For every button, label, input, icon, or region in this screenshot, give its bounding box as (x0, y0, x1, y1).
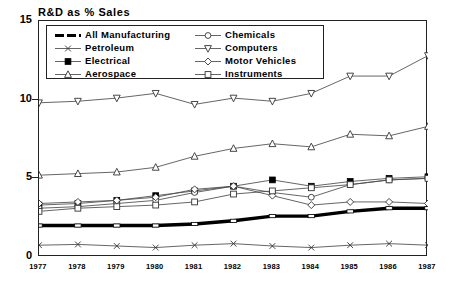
data-point-marker (270, 188, 276, 194)
legend-marker-icon (53, 67, 83, 80)
legend: All ManufacturingPetroleumElectricalAero… (46, 25, 324, 79)
x-tick-label: 1978 (68, 262, 86, 271)
data-point-marker (308, 194, 314, 200)
data-point-marker (75, 205, 81, 211)
x-tick-label: 1984 (302, 262, 320, 271)
data-point-marker (153, 202, 159, 208)
data-point-marker (347, 198, 354, 205)
data-point-marker (308, 185, 314, 191)
data-point-marker (192, 199, 198, 205)
data-point-marker (205, 72, 211, 78)
data-point-marker (425, 53, 428, 60)
legend-marker-icon (53, 28, 83, 41)
x-tick-label: 1979 (107, 262, 125, 271)
legend-marker-icon (193, 28, 223, 41)
legend-marker-icon (53, 41, 83, 54)
y-tick-label: 10 (4, 92, 32, 104)
data-point-marker (205, 58, 212, 65)
x-tick-label: 1985 (340, 262, 358, 271)
data-point-marker (269, 214, 275, 217)
x-tick-label: 1983 (263, 262, 281, 271)
data-point-marker (114, 204, 120, 210)
y-tick-label: 0 (4, 249, 32, 261)
legend-label: Instruments (225, 67, 283, 80)
legend-label: Motor Vehicles (225, 54, 296, 67)
chart-title: R&D as % Sales (38, 6, 130, 18)
data-point-marker (153, 224, 159, 227)
legend-label: Electrical (85, 54, 130, 67)
data-point-marker (231, 191, 237, 197)
series-petroleum (39, 241, 428, 251)
data-point-marker (230, 219, 236, 222)
series-all-manufacturing (39, 207, 428, 228)
x-tick-label: 1977 (29, 262, 47, 271)
y-tick-label: 5 (4, 170, 32, 182)
legend-label: Chemicals (225, 28, 275, 41)
data-point-marker (425, 123, 428, 130)
legend-label: All Manufacturing (85, 28, 170, 41)
x-tick-label: 1981 (185, 262, 203, 271)
data-point-marker (191, 222, 197, 225)
data-point-marker (65, 59, 71, 65)
x-tick-label: 1987 (418, 262, 436, 271)
series-line (39, 208, 428, 225)
series-aerospace (39, 123, 428, 178)
data-point-marker (39, 208, 42, 214)
legend-label: Computers (225, 41, 278, 54)
data-point-marker (270, 177, 276, 183)
data-point-marker (114, 224, 120, 227)
legend-label: Aerospace (85, 67, 136, 80)
chart-root: R&D as % Sales 051015 197719781979198019… (0, 0, 449, 287)
data-point-marker (425, 175, 428, 181)
data-point-marker (386, 207, 392, 210)
data-point-marker (269, 98, 276, 105)
x-tick-label: 1980 (146, 262, 164, 271)
data-point-marker (205, 33, 211, 39)
legend-label: Petroleum (85, 41, 134, 54)
data-point-marker (347, 210, 353, 213)
x-tick-label: 1986 (379, 262, 397, 271)
x-tick-label: 1982 (224, 262, 242, 271)
legend-marker-icon (53, 54, 83, 67)
data-point-marker (191, 101, 198, 108)
y-tick-label: 15 (4, 13, 32, 25)
data-point-marker (39, 224, 42, 227)
legend-marker-icon (193, 41, 223, 54)
legend-marker-icon (193, 54, 223, 67)
data-point-marker (39, 100, 42, 107)
data-point-marker (347, 131, 354, 138)
data-point-marker (425, 200, 429, 207)
data-point-marker (308, 202, 315, 209)
data-point-marker (269, 140, 276, 147)
data-point-marker (347, 182, 353, 188)
data-point-marker (75, 224, 81, 227)
legend-marker-icon (193, 67, 223, 80)
data-point-marker (386, 198, 393, 205)
data-point-marker (386, 177, 392, 183)
data-point-marker (308, 214, 314, 217)
